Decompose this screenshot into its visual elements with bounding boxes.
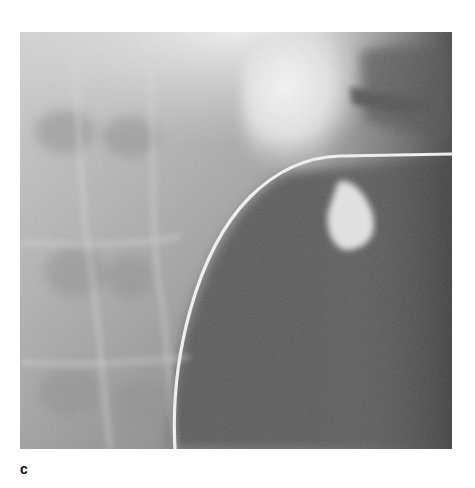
- radiograph-svg: [20, 32, 452, 449]
- film-grain: [20, 32, 452, 449]
- radiograph-image: [20, 32, 452, 449]
- panel-label: c: [20, 462, 28, 476]
